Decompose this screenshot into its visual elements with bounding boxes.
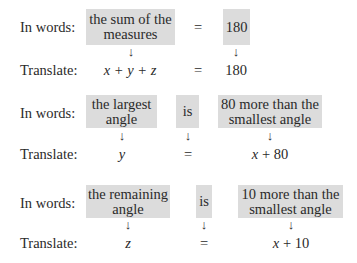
phrase-text: is — [199, 194, 209, 209]
expression-lhs: x + y + z — [100, 62, 160, 79]
phrase-box-largest-angle: the largest angle — [86, 95, 157, 128]
equals-sign: = — [180, 146, 196, 163]
phrase-box-sum: the sum of the measures — [86, 9, 175, 45]
phrase-text: is — [183, 104, 193, 119]
down-arrow-icon: ↓ — [123, 219, 133, 231]
down-arrow-icon: ↓ — [231, 46, 241, 58]
phrase-box-80-more: 80 more than the smallest angle — [218, 95, 322, 128]
equals-sign: = — [190, 19, 206, 36]
expression-lhs: y — [112, 146, 132, 163]
expression-rhs: x + 80 — [245, 146, 295, 163]
phrase-box-remaining-angle: the remaining angle — [86, 185, 170, 218]
in-words-label: In words: — [20, 195, 75, 212]
expression-rhs: 180 — [221, 62, 251, 79]
down-arrow-icon: ↓ — [265, 130, 275, 142]
down-arrow-icon: ↓ — [126, 46, 136, 58]
phrase-text: 80 more than the smallest angle — [218, 97, 322, 127]
phrase-text: the sum of the measures — [86, 12, 175, 42]
down-arrow-icon: ↓ — [117, 130, 127, 142]
in-words-label: In words: — [20, 105, 75, 122]
phrase-box-is: is — [176, 95, 199, 128]
down-arrow-icon: ↓ — [183, 130, 193, 142]
down-arrow-icon: ↓ — [286, 219, 296, 231]
phrase-text: the remaining angle — [86, 187, 170, 217]
phrase-box-10-more: 10 more than the smallest angle — [238, 185, 343, 218]
equals-sign: = — [196, 235, 212, 252]
expression-rhs: x + 10 — [266, 235, 316, 252]
phrase-text: 180 — [226, 20, 248, 35]
phrase-box-180: 180 — [223, 9, 250, 45]
translate-label: Translate: — [20, 146, 77, 163]
phrase-box-is: is — [196, 185, 212, 218]
translate-label: Translate: — [20, 62, 77, 79]
down-arrow-icon: ↓ — [199, 219, 209, 231]
in-words-label: In words: — [20, 19, 75, 36]
phrase-text: the largest angle — [86, 97, 157, 127]
expression-lhs: z — [118, 235, 138, 252]
translate-label: Translate: — [20, 235, 77, 252]
phrase-text: 10 more than the smallest angle — [238, 187, 343, 217]
equals-sign: = — [190, 62, 206, 79]
